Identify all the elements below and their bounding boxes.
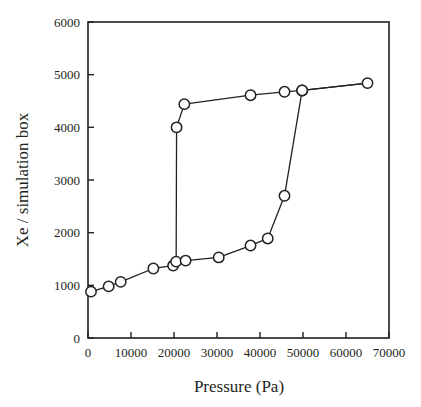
x-axis-tick-labels: 010000200003000040000500006000070000 [85, 345, 406, 360]
y-axis-title: Xe / simulation box [13, 112, 32, 247]
data-point-markers [86, 78, 373, 297]
x-axis-title: Pressure (Pa) [194, 377, 284, 396]
data-point-marker [263, 233, 273, 243]
isotherm-figure: 0100020003000400050006000 01000020000300… [0, 0, 421, 407]
x-tick-label: 20000 [158, 345, 191, 360]
data-point-marker [245, 240, 255, 250]
x-tick-label: 30000 [201, 345, 234, 360]
x-tick-label: 50000 [287, 345, 320, 360]
branch-connector-line [302, 83, 367, 90]
x-tick-label: 70000 [373, 345, 406, 360]
data-point-marker [103, 281, 113, 291]
y-axis-tick-labels: 0100020003000400050006000 [54, 15, 80, 346]
x-tick-label: 60000 [330, 345, 363, 360]
data-point-marker [279, 87, 289, 97]
data-series [91, 83, 367, 292]
data-point-marker [245, 90, 255, 100]
series-line-desorption [186, 90, 303, 260]
chart-canvas: 0100020003000400050006000 01000020000300… [0, 0, 421, 407]
x-tick-label: 10000 [115, 345, 148, 360]
data-point-marker [180, 255, 190, 265]
data-point-marker [279, 191, 289, 201]
data-point-marker [86, 286, 96, 296]
y-tick-label: 6000 [54, 15, 80, 30]
data-point-marker [148, 263, 158, 273]
y-tick-label: 0 [74, 331, 81, 346]
data-point-marker [115, 277, 125, 287]
y-tick-label: 5000 [54, 67, 80, 82]
x-tick-label: 0 [85, 345, 92, 360]
data-point-marker [297, 85, 307, 95]
data-point-marker [362, 78, 372, 88]
series-line-adsorption [91, 83, 367, 292]
y-tick-label: 3000 [54, 173, 80, 188]
y-tick-label: 2000 [54, 225, 80, 240]
data-point-marker [171, 122, 181, 132]
x-tick-label: 40000 [244, 345, 277, 360]
data-point-marker [214, 252, 224, 262]
y-tick-label: 1000 [54, 278, 80, 293]
data-point-marker [179, 99, 189, 109]
axes [88, 22, 389, 338]
y-tick-label: 4000 [54, 120, 80, 135]
tick-marks [88, 22, 389, 338]
